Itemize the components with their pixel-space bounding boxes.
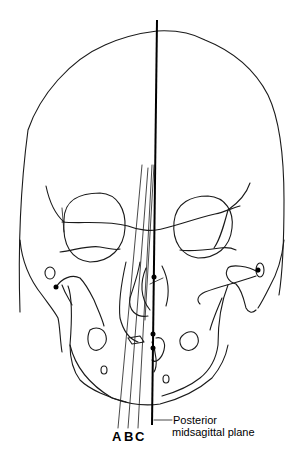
landmark-dot-upper-incisor: [151, 332, 156, 337]
plane-label-line2: midsagittal plane: [172, 426, 255, 438]
left-mental-foramen: [101, 366, 107, 374]
incisor-block: [128, 336, 144, 344]
landmark-dot-nasal: [152, 275, 157, 280]
landmark-dot-lower-incisor: [151, 346, 156, 351]
nasal-aperture-inner-right: [162, 266, 168, 306]
right-mental-foramen: [163, 375, 169, 383]
left-mandible-ramus: [68, 286, 126, 402]
landmark-dot-right-condyle: [256, 268, 261, 273]
right-condyle: [226, 266, 258, 312]
label-c: C: [135, 429, 145, 444]
skull-diagram: A B C Posterior midsagittal plane: [0, 0, 299, 462]
left-molar-outline: [88, 328, 106, 350]
right-infraorbital-line: [180, 248, 236, 251]
plane-label-line1: Posterior: [173, 414, 217, 426]
nasal-spine-mark: [150, 278, 163, 284]
label-b: B: [124, 429, 133, 444]
right-molar-outline: [180, 332, 198, 351]
landmark-dot-left-condyle: [54, 285, 59, 290]
right-zygomatic-arch: [198, 276, 256, 304]
right-face-outline: [258, 240, 284, 308]
left-face-outline: [20, 240, 62, 352]
left-orbit: [64, 193, 125, 262]
label-a: A: [112, 429, 122, 444]
right-mandible-ramus: [162, 285, 228, 396]
left-foramen: [45, 267, 55, 279]
left-temporal-line: [46, 186, 64, 222]
left-condyle: [56, 276, 104, 326]
